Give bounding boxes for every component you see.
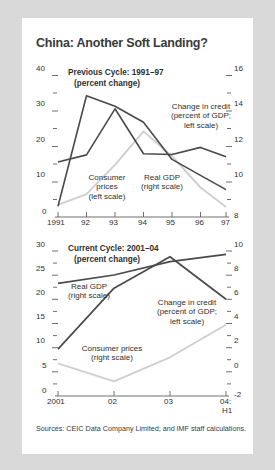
- bottom-y2tick-neg2: -2: [234, 390, 241, 399]
- chart-current-cycle: Current Cycle: 2001–04 (percent change) …: [22, 236, 253, 414]
- top-ann-credit-line1: Change in credit: [159, 102, 243, 111]
- bottom-ytick-10: 10: [36, 336, 45, 345]
- bottom-ytick-0: 0: [42, 386, 46, 395]
- top-ann-cpi-line1: Consumer: [79, 173, 135, 182]
- bottom-y2tick-6: 6: [234, 288, 238, 297]
- bottom-xtick-04: 04:: [220, 397, 231, 406]
- bottom-ann-gdp-line1: Real GDP: [58, 282, 120, 291]
- top-xtick-93: 93: [109, 218, 118, 227]
- top-ytick-40: 40: [36, 64, 45, 73]
- top-panel-subheading: (percent change): [74, 79, 140, 88]
- bottom-panel-subheading: (percent change): [74, 255, 140, 264]
- page-title: China: Another Soft Landing?: [36, 36, 208, 50]
- top-ann-gdp-line1: Real GDP: [134, 173, 190, 182]
- top-ann-gdp-line2: (right scale): [134, 182, 190, 191]
- top-xtick-92: 92: [81, 218, 90, 227]
- top-panel-heading: Previous Cycle: 1991–97: [68, 68, 164, 77]
- source-note: Sources: CEIC Data Company Limited; and …: [36, 424, 248, 433]
- x-axis-ticks: [58, 391, 226, 396]
- top-ytick-30: 30: [36, 99, 45, 108]
- top-xtick-94: 94: [138, 218, 147, 227]
- bottom-annotation-real-gdp: Real GDP (right scale): [58, 282, 120, 301]
- top-ann-cpi-line3: (left scale): [79, 192, 135, 201]
- bottom-ann-credit-line2: (percent of GDP;: [144, 307, 230, 316]
- top-ann-cpi-line2: prices: [79, 182, 135, 191]
- bottom-y2tick-2: 2: [234, 336, 238, 345]
- top-xtick-96: 96: [195, 218, 204, 227]
- top-annotation-consumer-prices: Consumer prices (left scale): [79, 173, 135, 201]
- bottom-ann-cpi-line1: Consumer prices: [67, 344, 157, 353]
- bottom-panel-heading: Current Cycle: 2001–04: [68, 244, 159, 253]
- bottom-ytick-25: 25: [36, 264, 45, 273]
- bottom-ann-credit-line3: left scale): [144, 317, 230, 326]
- bottom-xtick-03: 03: [164, 397, 173, 406]
- top-xtick-95: 95: [166, 218, 175, 227]
- top-annotation-real-gdp: Real GDP (right scale): [134, 173, 190, 192]
- top-ytick-0: 0: [42, 207, 46, 216]
- top-xtick-97: 97: [221, 218, 230, 227]
- bottom-xtick-04-h1: H1: [222, 406, 232, 415]
- top-xtick-1991: 1991: [47, 218, 65, 227]
- top-ann-credit-line2: (percent of GDP;: [159, 111, 243, 120]
- top-y2tick-10: 10: [234, 170, 243, 179]
- top-ytick-20: 20: [36, 135, 45, 144]
- top-y2tick-16: 16: [234, 64, 243, 73]
- bottom-y2tick-10: 10: [234, 240, 243, 249]
- top-ytick-10: 10: [36, 170, 45, 179]
- bottom-ytick-20: 20: [36, 288, 45, 297]
- top-y2tick-8: 8: [234, 211, 238, 220]
- chart-previous-cycle: Previous Cycle: 1991–97 (percent change)…: [22, 62, 253, 234]
- figure-card: China: Another Soft Landing?: [22, 18, 253, 454]
- bottom-annotation-change-in-credit: Change in credit (percent of GDP; left s…: [144, 298, 230, 326]
- x-axis-ticks: [58, 212, 226, 217]
- bottom-ytick-15: 15: [36, 312, 45, 321]
- top-y2tick-12: 12: [234, 135, 243, 144]
- bottom-y2tick-8: 8: [234, 264, 238, 273]
- top-ann-credit-line3: left scale): [159, 121, 243, 130]
- bottom-ytick-30: 30: [36, 240, 45, 249]
- bottom-xtick-02: 02: [108, 397, 117, 406]
- bottom-ann-gdp-line2: (right scale): [58, 291, 120, 300]
- bottom-annotation-consumer-prices: Consumer prices (right scale): [67, 344, 157, 363]
- bottom-y2tick-4: 4: [234, 312, 238, 321]
- top-annotation-change-in-credit: Change in credit (percent of GDP; left s…: [159, 102, 243, 130]
- bottom-ann-credit-line1: Change in credit: [144, 298, 230, 307]
- bottom-xtick-2001: 2001: [47, 397, 65, 406]
- bottom-ann-cpi-line2: (right scale): [67, 353, 157, 362]
- bottom-y2tick-0: 0: [234, 361, 238, 370]
- bottom-ytick-5: 5: [42, 361, 46, 370]
